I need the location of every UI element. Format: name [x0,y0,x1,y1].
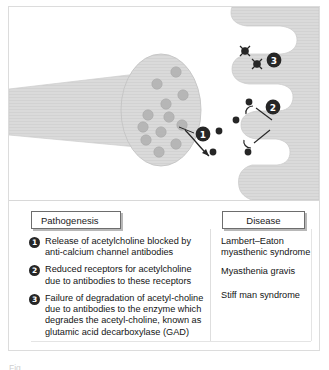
diagram-marker-1-label: 1 [200,130,206,140]
figure-container: 1 2 3 Pathogenesis Disease 1 Rele [0,0,329,370]
pathogenesis-header-label: Pathogenesis [41,215,99,226]
disease-item-1: Lambert–Eaton myasthenic syndrome [221,236,313,259]
pathogenesis-text-1: Release of acetylcholine blocked by anti… [45,236,207,259]
pathogenesis-badge-1: 1 [29,237,40,248]
diagram-marker-3: 3 [267,53,282,68]
pathogenesis-item: 2 Reduced receptors for acetylcholine du… [29,264,207,287]
pathogenesis-text-2: Reduced receptors for acetylcholine due … [45,264,207,287]
pathogenesis-header-chip: Pathogenesis [31,211,121,229]
pathogenesis-text-3: Failure of degradation of acetyl-choline… [45,293,207,339]
legend-table-region: Pathogenesis Disease 1 Release of acetyl… [9,205,319,347]
figure-caption-clipped: Fig. [9,363,309,370]
pathogenesis-badge-3: 3 [29,294,40,305]
disease-list: Lambert–Eaton myasthenic syndrome Myasth… [221,236,313,302]
diagram-marker-1: 1 [196,127,211,142]
disease-item-3: Stiff man syndrome [221,290,313,301]
pathogenesis-item: 1 Release of acetylcholine blocked by an… [29,236,207,259]
diagram-marker-2: 2 [266,100,281,115]
acetylcholine-molecules [210,117,240,156]
diagram-marker-2-label: 2 [270,103,276,113]
column-divider [210,229,211,341]
synapse-diagram-panel: 1 2 3 [9,7,319,200]
disease-header-chip: Disease [222,211,305,229]
pathogenesis-list: 1 Release of acetylcholine blocked by an… [29,236,207,344]
diagram-marker-3-label: 3 [271,56,277,66]
disease-item-2: Myasthenia gravis [221,266,313,277]
axon-shaft [9,74,137,147]
pathogenesis-item: 3 Failure of degradation of acetyl-choli… [29,293,207,339]
disease-header-label: Disease [246,215,280,226]
pathogenesis-badge-2: 2 [29,265,40,276]
panel-divider [9,200,319,201]
synapse-diagram-svg: 1 2 3 [9,7,319,200]
